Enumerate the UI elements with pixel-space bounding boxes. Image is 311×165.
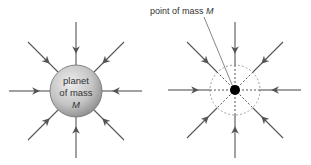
planet-label-line2: of mass [59, 87, 93, 98]
gravitational-field-diagram: planet of mass M point of mass M [0, 0, 311, 165]
field-arrow-bottom-left [28, 121, 47, 140]
field-arrow-top-right [105, 42, 124, 61]
point-mass-dot [230, 85, 240, 95]
point-mass-label-text: point of mass [150, 6, 206, 16]
field-arrow-top-right [264, 42, 283, 61]
point-mass-label-symbol: M [206, 6, 214, 16]
planet-label-line3: M [72, 99, 80, 110]
point-mass-field-diagram: point of mass M [150, 6, 301, 158]
field-arrow-top-left [187, 42, 206, 61]
planet-label-line1: planet [63, 75, 89, 86]
point-mass-label: point of mass M [150, 6, 214, 16]
field-arrow-bottom-right [264, 119, 283, 138]
field-arrow-bottom-right [105, 121, 124, 140]
field-arrow-bottom-left [187, 119, 206, 138]
planet-field-diagram: planet of mass M [9, 22, 142, 158]
label-leader-line [204, 17, 233, 87]
field-arrow-top-left [28, 42, 47, 61]
